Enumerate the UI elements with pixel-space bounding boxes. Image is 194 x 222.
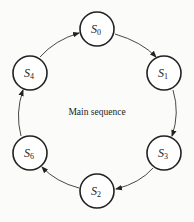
edge-s4-s0 [40, 33, 79, 57]
edge-s3-s2 [116, 168, 153, 189]
edge-s0-s1 [115, 34, 156, 57]
state-cycle-diagram: S0 S1 S3 S2 S6 S4 Main sequence [0, 0, 194, 222]
diagram-caption: Main sequence [68, 107, 125, 117]
node-s3: S3 [147, 136, 181, 170]
node-s2: S2 [80, 174, 114, 208]
edge-s2-s6 [42, 167, 79, 188]
node-s1: S1 [147, 56, 181, 90]
edge-s1-s3 [172, 90, 176, 136]
node-s0: S0 [80, 12, 114, 46]
node-s4: S4 [13, 56, 47, 90]
edge-s6-s4 [18, 90, 23, 136]
node-s6: S6 [13, 136, 47, 170]
